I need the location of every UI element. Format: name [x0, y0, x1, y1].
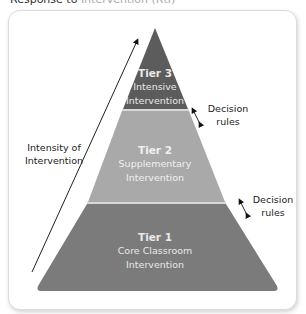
- decision-rules-lower-line1: Decision: [243, 193, 303, 206]
- tier-1-line2: Intervention: [95, 258, 215, 272]
- decision-rules-label-lower: Decision rules: [243, 193, 303, 219]
- decision-rules-upper-line1: Decision: [198, 102, 258, 115]
- intensity-label-line1: Intensity of: [14, 141, 94, 154]
- tier-3-line1: Intensive: [115, 80, 195, 94]
- tier-2-line1: Supplementary: [100, 157, 210, 171]
- intensity-label-line2: Intervention: [14, 154, 94, 167]
- tier-3-label: Tier 3 Intensive Intervention: [115, 66, 195, 108]
- tier-1-line1: Core Classroom: [95, 244, 215, 258]
- decision-rules-upper-line2: rules: [198, 115, 258, 128]
- tier-1-title: Tier 1: [95, 230, 215, 244]
- decision-rules-label-upper: Decision rules: [198, 102, 258, 128]
- tier-2-line2: Intervention: [100, 171, 210, 185]
- tier-3-line2: Intervention: [115, 94, 195, 108]
- tier-2-label: Tier 2 Supplementary Intervention: [100, 143, 210, 185]
- tier-1-label: Tier 1 Core Classroom Intervention: [95, 230, 215, 272]
- tier-3-title: Tier 3: [115, 66, 195, 80]
- intensity-label: Intensity of Intervention: [14, 141, 94, 167]
- tier-2-title: Tier 2: [100, 143, 210, 157]
- decision-rules-lower-line2: rules: [243, 206, 303, 219]
